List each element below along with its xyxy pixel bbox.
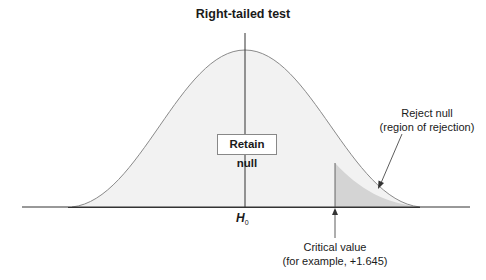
reject-line-2: (region of rejection)	[368, 120, 486, 134]
reject-line-1: Reject null	[368, 106, 486, 120]
critical-value-label: Critical value (for example, +1.645)	[262, 240, 408, 268]
retain-null-label: Retain null	[217, 134, 277, 155]
mean-symbol: H	[236, 211, 245, 225]
critical-line-1: Critical value	[262, 240, 408, 254]
critical-line-2: (for example, +1.645)	[262, 254, 408, 268]
critical-arrow-head	[332, 208, 338, 215]
reject-null-label: Reject null (region of rejection)	[368, 106, 486, 134]
mean-subscript: 0	[245, 219, 249, 226]
reject-arrow-shaft	[381, 134, 402, 183]
null-hypothesis-mean-label: H0	[236, 211, 249, 226]
